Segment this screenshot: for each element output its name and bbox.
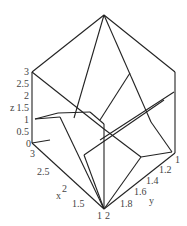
- y-tick: 1.2: [159, 164, 172, 175]
- z-tick: 3: [24, 66, 29, 77]
- 3d-surface-plot: 3 2.5 2 1.5 1 0.5 0 z 3 2.5 2 1.5 1 x 2 …: [0, 0, 187, 226]
- z-tick: 1: [24, 114, 29, 125]
- z-tick: 2.5: [17, 78, 30, 89]
- z-tick: 1.5: [17, 102, 30, 113]
- y-tick: 1: [175, 154, 180, 165]
- y-tick: 1.6: [134, 186, 147, 197]
- x-tick: 2: [62, 183, 67, 194]
- z-tick: 0.5: [17, 126, 30, 137]
- z-tick: 2: [24, 90, 29, 101]
- z-axis-label: z: [10, 102, 15, 113]
- y-tick: 2: [105, 210, 110, 221]
- y-tick: 1.8: [120, 198, 133, 209]
- x-tick: 1.5: [72, 198, 85, 209]
- x-axis: 3 2.5 2 1.5 1 x: [30, 148, 102, 221]
- x-tick: 2.5: [37, 166, 50, 177]
- y-axis: 2 1.8 1.6 1.4 1.2 1 y: [105, 154, 180, 221]
- x-tick: 3: [30, 148, 35, 159]
- x-axis-label: x: [56, 190, 61, 201]
- z-axis: 3 2.5 2 1.5 1 0.5 0 z: [10, 66, 31, 149]
- y-axis-label: y: [149, 195, 154, 206]
- plot-canvas: 3 2.5 2 1.5 1 0.5 0 z 3 2.5 2 1.5 1 x 2 …: [0, 0, 187, 226]
- x-tick: 1: [97, 210, 102, 221]
- y-tick: 1.4: [146, 175, 159, 186]
